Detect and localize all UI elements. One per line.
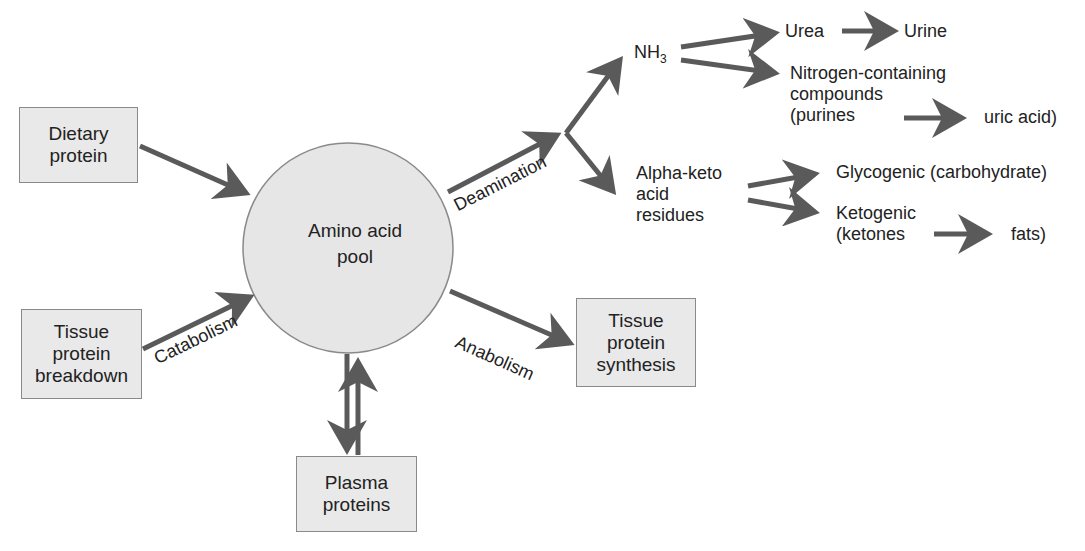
arrow-to-ketogenic [748, 200, 815, 212]
arrow-nh3-to-urea [681, 33, 775, 47]
urine-label: Urine [904, 21, 947, 42]
ketogenic-label: Ketogenic (ketones [836, 203, 916, 245]
fats-label: fats) [1011, 224, 1046, 245]
nitrogen-compounds-label: Nitrogen-containing compounds (purines [790, 63, 946, 126]
glycogenic-label: Glycogenic (carbohydrate) [836, 162, 1047, 183]
alpha-keto-label: Alpha-keto acid residues [636, 163, 722, 226]
arrow-nh3-to-nitrogen [681, 60, 775, 73]
arrow-dietary-to-pool [140, 146, 246, 193]
arrow-to-nh3 [566, 60, 620, 133]
plasma-proteins-box: Plasma proteins [296, 456, 417, 532]
tissue-synthesis-box: Tissue protein synthesis [576, 298, 696, 387]
uric-acid-label: uric acid) [984, 107, 1057, 128]
amino-acid-pool-label: Amino acid pool [270, 218, 440, 270]
arrow-to-glycogenic [748, 174, 815, 186]
urea-label: Urea [785, 21, 824, 42]
nh3-label: NH3 [634, 42, 667, 70]
dietary-protein-box: Dietary protein [19, 107, 138, 183]
arrow-to-alpha-keto [566, 133, 613, 191]
tissue-breakdown-box: Tissue protein breakdown [21, 309, 142, 399]
